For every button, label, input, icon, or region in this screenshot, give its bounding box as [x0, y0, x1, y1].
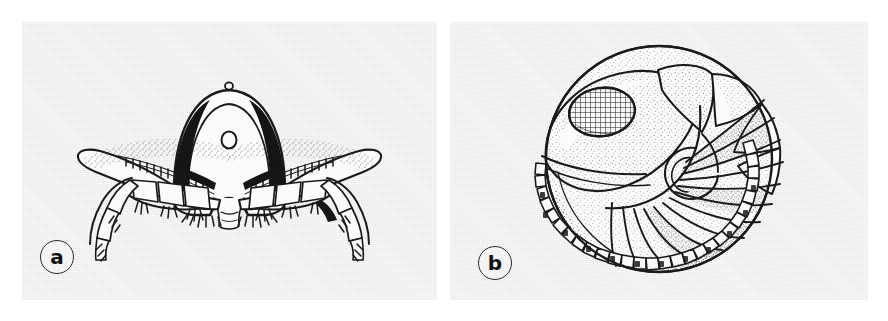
panel-b: b [450, 22, 868, 300]
panel-label-b: b [478, 246, 512, 280]
panel-a: a [22, 22, 437, 300]
crustacean-head-anterior-drawing [22, 22, 437, 300]
panel-label-a: a [40, 240, 74, 274]
figure-root: a [0, 0, 888, 321]
crustacean-conglobated-body-drawing [450, 22, 868, 300]
